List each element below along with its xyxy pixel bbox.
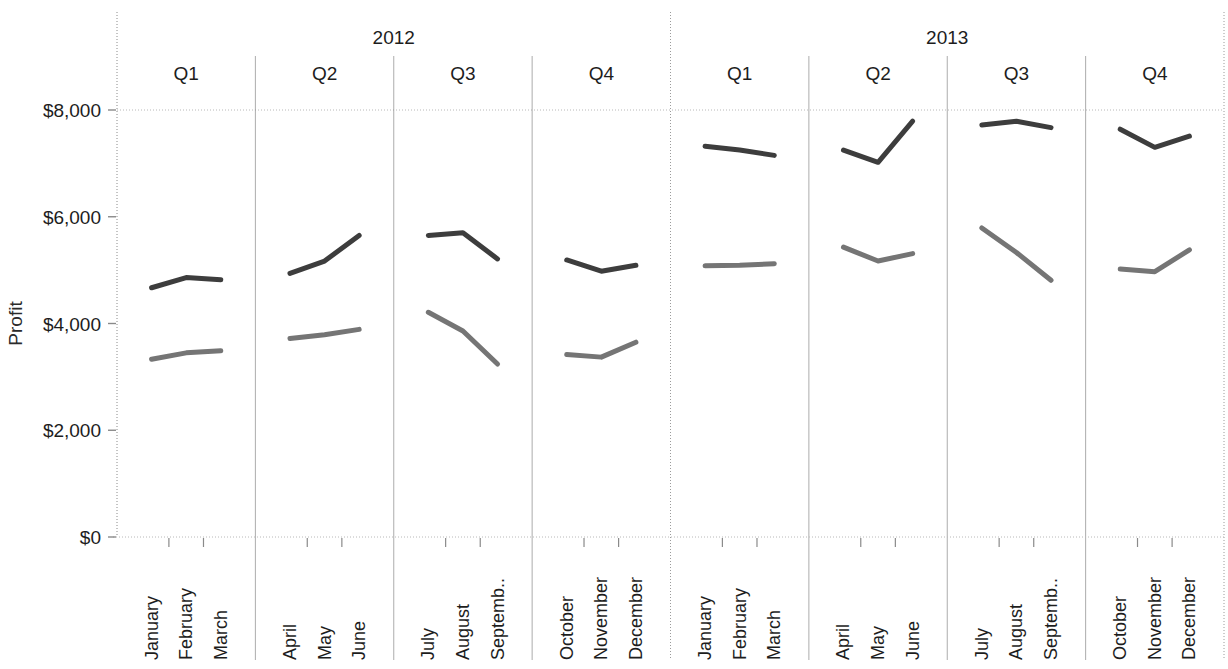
quarter-header-label: Q4 [589,63,615,84]
x-axis-month-label: March [764,610,784,660]
y-axis-tick-label: $4,000 [43,314,101,335]
series-line-series-upper [428,233,497,259]
x-axis-month-label: August [1006,604,1026,660]
x-axis-month-label: November [1145,577,1165,660]
x-axis-month-label: October [1110,596,1130,660]
y-axis-title: Profit [5,301,26,346]
x-axis-month-label: December [626,577,646,660]
x-axis-month-label: December [1179,577,1199,660]
y-axis-labels-group: $0$2,000$4,000$6,000$8,000 [43,100,101,548]
y-axis-ticks-group [108,110,116,537]
series-line-series-upper [705,146,774,155]
series-line-series-lower [1120,250,1189,272]
x-axis-month-label: January [142,596,162,660]
x-axis-month-label: April [833,624,853,660]
x-axis-month-label: August [453,604,473,660]
series-line-series-lower [705,264,774,266]
series-line-series-upper [1120,129,1189,147]
panel-dividers-group [255,12,1224,660]
y-axis-tick-label: $2,000 [43,420,101,441]
series-line-series-upper [567,260,636,271]
series-line-series-lower [982,228,1051,280]
series-line-series-upper [152,278,221,288]
x-axis-month-label: March [211,610,231,660]
y-axis-tick-label: $8,000 [43,100,101,121]
x-axis-month-label: Septemb.. [1041,578,1061,660]
series-line-series-lower [152,351,221,360]
axes-group [113,12,1224,537]
quarter-header-label: Q2 [312,63,337,84]
x-axis-month-label: January [695,596,715,660]
year-header-label: 2013 [926,27,968,48]
x-axis-month-label: February [176,588,196,660]
series-line-series-lower [428,312,497,364]
x-axis-month-label: October [557,596,577,660]
year-header-label: 2012 [373,27,415,48]
series-line-series-lower [843,247,912,261]
y-axis-tick-label: $0 [80,527,101,548]
quarter-header-label: Q3 [1004,63,1029,84]
series-line-series-upper [982,121,1051,127]
x-axis-month-label: May [315,626,335,660]
quarter-header-label: Q2 [865,63,890,84]
series-line-series-upper [843,121,912,162]
x-axis-month-label: July [418,628,438,660]
profit-line-chart: 20122013Q1Q2Q3Q4Q1Q2Q3Q4 JanuaryFebruary… [0,0,1228,669]
x-axis-month-label: November [591,577,611,660]
x-axis-month-label: February [730,588,750,660]
series-line-series-lower [290,329,359,338]
x-axis-month-label: May [868,626,888,660]
x-axis-month-label: July [972,628,992,660]
series-line-series-lower [567,342,636,357]
x-axis-month-label: June [349,621,369,660]
quarter-header-label: Q1 [727,63,752,84]
x-axis-month-label: April [280,624,300,660]
quarter-header-label: Q1 [174,63,199,84]
y-axis-tick-label: $6,000 [43,207,101,228]
x-axis-month-label: Septemb.. [488,578,508,660]
x-axis-ticks-group [169,538,1172,547]
x-axis-month-label: June [903,621,923,660]
series-line-series-upper [290,235,359,273]
quarter-header-label: Q4 [1142,63,1168,84]
chart-container: 20122013Q1Q2Q3Q4Q1Q2Q3Q4 JanuaryFebruary… [0,0,1228,669]
quarter-header-label: Q3 [450,63,475,84]
